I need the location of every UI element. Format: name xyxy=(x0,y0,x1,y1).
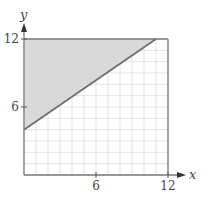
y-axis-arrow-icon xyxy=(21,23,27,32)
chart-canvas: 612612 x y xyxy=(0,0,203,197)
inequality-graph: 612612 x y xyxy=(0,0,203,197)
y-tick-label: 6 xyxy=(11,100,19,114)
x-axis-arrow-icon xyxy=(177,172,186,178)
y-tick-label: 12 xyxy=(4,32,19,46)
y-axis-label: y xyxy=(19,7,28,22)
x-axis-label: x xyxy=(189,167,197,182)
x-tick-label: 12 xyxy=(160,179,175,193)
x-tick-label: 6 xyxy=(92,179,100,193)
